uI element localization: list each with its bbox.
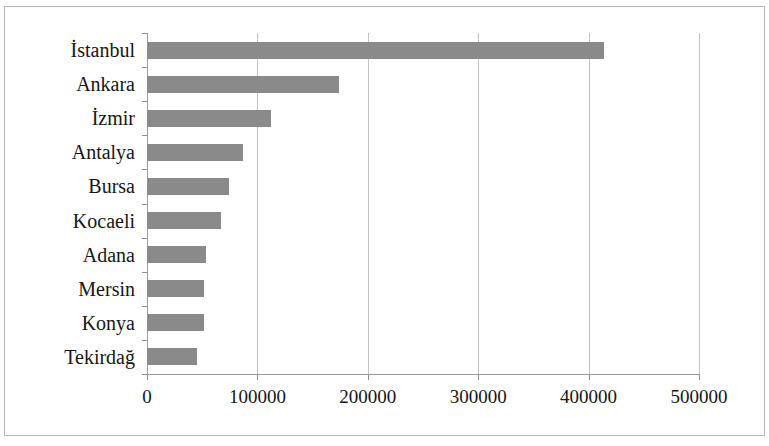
category-tick: [142, 169, 147, 170]
bar-row: [147, 42, 699, 59]
x-tick-500000: [699, 375, 700, 380]
category-tick: [142, 340, 147, 341]
x-axis-tick-label: 0: [142, 387, 152, 406]
category-tick: [142, 204, 147, 205]
category-tick: [142, 238, 147, 239]
x-axis-tick-label: 400000: [560, 387, 617, 406]
bar-row: [147, 178, 699, 195]
category-label-ankara: Ankara: [76, 74, 135, 94]
category-label-mersin: Mersin: [78, 279, 135, 299]
category-label-kocaeli: Kocaeli: [73, 211, 135, 231]
bar-row: [147, 280, 699, 297]
x-tick-200000: [368, 375, 369, 380]
x-axis-tick-label: 300000: [450, 387, 507, 406]
category-label-adana: Adana: [83, 245, 135, 265]
category-label-bursa: Bursa: [88, 176, 135, 196]
bar-konya: [147, 314, 204, 331]
bar-i̇stanbul: [147, 42, 604, 59]
bar-ankara: [147, 76, 339, 93]
value-axis-line: [147, 374, 700, 375]
category-tick: [142, 33, 147, 34]
category-label-i̇stanbul: İstanbul: [71, 40, 135, 60]
value-axis-labels: 0100000200000300000400000500000: [5, 387, 766, 421]
category-tick: [142, 306, 147, 307]
bar-row: [147, 246, 699, 263]
category-label-konya: Konya: [82, 313, 135, 333]
bar-row: [147, 314, 699, 331]
bar-adana: [147, 246, 206, 263]
bar-i̇zmir: [147, 110, 271, 127]
category-tick: [142, 272, 147, 273]
x-tick-100000: [257, 375, 258, 380]
x-axis-tick-label: 200000: [339, 387, 396, 406]
category-label-i̇zmir: İzmir: [92, 108, 135, 128]
chart-frame: İstanbulAnkaraİzmirAntalyaBursaKocaeliAd…: [4, 6, 765, 436]
bar-antalya: [147, 144, 243, 161]
bar-row: [147, 144, 699, 161]
gridline-500000: [699, 33, 700, 374]
x-tick-300000: [478, 375, 479, 380]
bar-row: [147, 348, 699, 365]
bar-kocaeli: [147, 212, 221, 229]
bar-tekirdağ: [147, 348, 197, 365]
bar-row: [147, 76, 699, 93]
category-label-tekirdağ: Tekirdağ: [64, 347, 135, 367]
category-tick: [142, 101, 147, 102]
x-axis-tick-label: 500000: [671, 387, 728, 406]
bar-mersin: [147, 280, 204, 297]
bar-row: [147, 110, 699, 127]
category-label-antalya: Antalya: [72, 142, 135, 162]
category-tick: [142, 135, 147, 136]
x-tick-400000: [589, 375, 590, 380]
category-axis-labels: İstanbulAnkaraİzmirAntalyaBursaKocaeliAd…: [5, 33, 143, 374]
x-axis-tick-label: 100000: [229, 387, 286, 406]
bar-bursa: [147, 178, 229, 195]
plot-area: [147, 33, 699, 374]
x-tick-0: [147, 375, 148, 380]
category-tick: [142, 67, 147, 68]
bar-row: [147, 212, 699, 229]
